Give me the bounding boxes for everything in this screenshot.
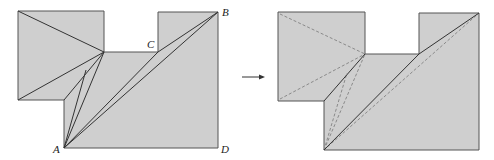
folding-diagram: A B C D bbox=[0, 0, 494, 160]
right-figure bbox=[278, 12, 479, 150]
arrow-icon bbox=[242, 75, 265, 80]
left-figure: A B C D bbox=[18, 6, 229, 155]
label-a: A bbox=[52, 143, 60, 155]
label-b: B bbox=[222, 6, 229, 18]
label-c: C bbox=[147, 38, 155, 50]
label-d: D bbox=[220, 143, 229, 155]
right-figure-outline bbox=[278, 12, 479, 150]
